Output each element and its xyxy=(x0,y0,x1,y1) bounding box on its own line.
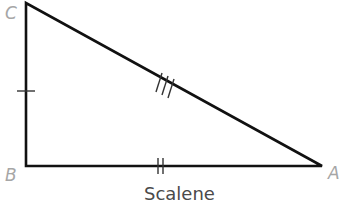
scalene-triangle-diagram: C B A Scalene xyxy=(0,0,342,215)
vertex-label-a: A xyxy=(327,163,340,183)
vertex-label-c: C xyxy=(5,3,17,23)
caption: Scalene xyxy=(144,183,215,204)
vertex-label-b: B xyxy=(5,165,17,185)
triangle xyxy=(26,3,322,166)
